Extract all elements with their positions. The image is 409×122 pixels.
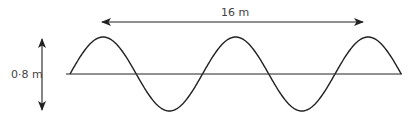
wave-diagram: 0·8 m 16 m <box>0 0 409 122</box>
length-label: 16 m <box>221 6 249 19</box>
amplitude-label: 0·8 m <box>11 68 43 81</box>
